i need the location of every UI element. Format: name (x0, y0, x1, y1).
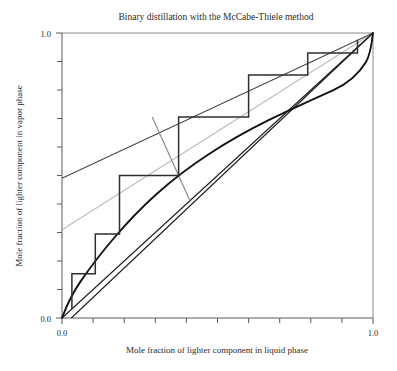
y-axis-label: Mole fraction of lighter component in va… (14, 85, 24, 267)
x-axis-label: Mole fraction of lighter component in li… (126, 345, 308, 355)
x-tick-label-left: 0.0 (57, 328, 68, 338)
x-tick-label-right: 1.0 (368, 328, 379, 338)
y-tick-label-bottom: 0.0 (40, 314, 51, 324)
y-tick-label-top: 1.0 (40, 29, 51, 39)
chart-title: Binary distillation with the McCabe-Thie… (119, 12, 314, 22)
mccabe-thiele-chart: Binary distillation with the McCabe-Thie… (0, 0, 397, 371)
